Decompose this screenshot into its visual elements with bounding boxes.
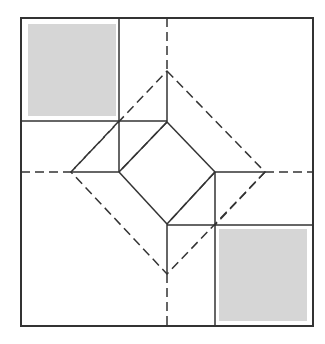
shaded-square-bottom-right [219, 229, 307, 321]
shaded-square-top-left [28, 24, 116, 116]
fold-pattern-diagram [0, 0, 325, 344]
diagram-canvas [0, 0, 325, 344]
